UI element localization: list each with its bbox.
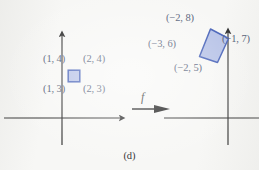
codomain-vertex-label-neg2-8: (−2, 8)	[166, 13, 194, 24]
figure-panel-d: (1, 4) (2, 4) (1, 3) (2, 3) (−2, 8) (−1,…	[0, 0, 259, 170]
domain-panel: (1, 4) (2, 4) (1, 3) (2, 3)	[0, 0, 130, 170]
codomain-panel: (−2, 8) (−1, 7) (−3, 6) (−2, 5)	[130, 0, 259, 170]
domain-vertex-label-2-3: (2, 3)	[83, 84, 105, 95]
codomain-vertex-label-neg3-6: (−3, 6)	[148, 39, 176, 50]
arrow-right-icon	[128, 92, 174, 118]
domain-vertex-label-1-3: (1, 3)	[43, 84, 65, 95]
domain-vertex-label-2-4: (2, 4)	[83, 54, 105, 65]
figure-caption: (d)	[0, 150, 259, 161]
codomain-vertex-label-neg2-5: (−2, 5)	[174, 63, 202, 74]
codomain-vertex-label-neg1-7: (−1, 7)	[222, 34, 250, 45]
domain-vertex-label-1-4: (1, 4)	[43, 54, 65, 65]
mapping-arrow-group: f	[128, 92, 174, 118]
